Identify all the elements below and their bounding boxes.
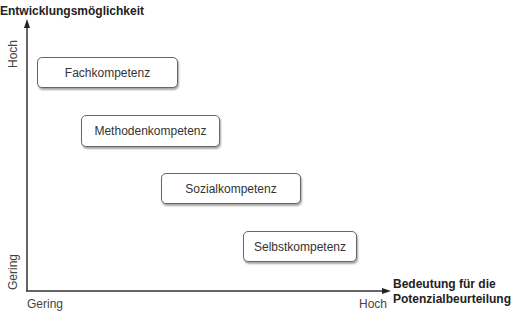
x-axis-arrow-icon [382, 288, 391, 294]
x-axis-high-label: Hoch [359, 297, 387, 311]
x-axis-title-line2: Potenzialbeurteilung [393, 292, 511, 307]
y-axis-high-label: Hoch [6, 40, 20, 68]
y-axis-arrow-icon [24, 19, 30, 28]
y-axis-low-label: Gering [6, 254, 20, 290]
x-axis-title-line1: Bedeutung für die [393, 277, 511, 292]
x-axis-low-label: Gering [27, 297, 63, 311]
box-methodenkompetenz: Methodenkompetenz [81, 115, 220, 147]
box-sozialkompetenz: Sozialkompetenz [161, 173, 301, 204]
box-fachkompetenz: Fachkompetenz [37, 57, 178, 88]
x-axis-title: Bedeutung für die Potenzialbeurteilung [393, 277, 511, 307]
box-selbstkompetenz: Selbstkompetenz [243, 231, 357, 262]
